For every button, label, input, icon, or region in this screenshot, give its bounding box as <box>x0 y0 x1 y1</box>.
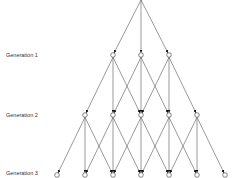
edge <box>114 57 141 112</box>
generation-2-node <box>139 113 144 118</box>
generation-2-label: Generation 2 <box>6 112 38 118</box>
edge <box>141 0 168 53</box>
generation-3-node <box>167 173 172 178</box>
edge <box>170 117 197 172</box>
edge <box>169 117 196 172</box>
generation-3-label: Generation 3 <box>6 170 38 176</box>
generation-2-node <box>167 113 172 118</box>
edge <box>86 117 113 172</box>
generation-3-node <box>55 173 60 178</box>
edge <box>142 57 169 112</box>
edge <box>141 117 168 172</box>
edge <box>113 117 140 172</box>
generation-3-node <box>139 173 144 178</box>
generation-1-label: Generation 1 <box>6 52 38 58</box>
generation-2-node <box>111 113 116 118</box>
generation-3-node <box>111 173 116 178</box>
generation-tree-diagram <box>0 0 232 178</box>
edge <box>86 57 113 112</box>
edges <box>58 0 224 173</box>
edge <box>113 57 140 112</box>
generation-3-node <box>195 173 200 178</box>
generation-2-node <box>195 113 200 118</box>
edge <box>197 117 224 172</box>
edge <box>142 117 169 172</box>
edge <box>141 57 168 112</box>
edge <box>114 117 141 172</box>
edge <box>169 57 196 112</box>
edge <box>114 0 141 53</box>
generation-1-node <box>167 53 172 58</box>
generation-2-node <box>83 113 88 118</box>
generation-1-node <box>139 53 144 58</box>
generation-3-node <box>223 173 228 178</box>
generation-3-node <box>83 173 88 178</box>
edge <box>58 117 85 172</box>
generation-1-node <box>111 53 116 58</box>
edge <box>85 117 112 172</box>
